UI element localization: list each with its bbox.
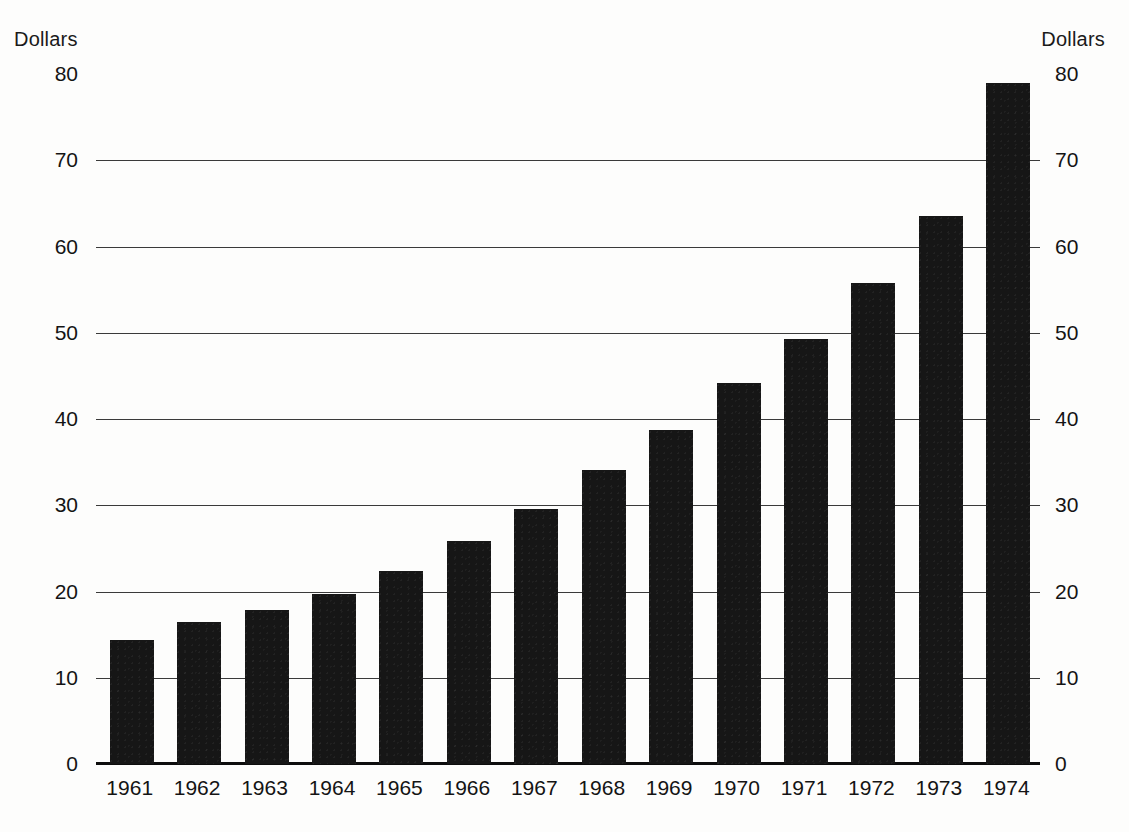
bar-1970 [717,383,761,764]
bar-1974 [986,83,1030,764]
x-tick-label-1962: 1962 [163,776,230,800]
bar-1961 [110,640,154,764]
x-tick-label-1964: 1964 [298,776,365,800]
x-tick-label-1971: 1971 [770,776,837,800]
bar-1973 [919,216,963,764]
y-tick-label-right-20: 20 [1055,581,1078,602]
x-tick-label-1973: 1973 [905,776,972,800]
y-tick-label-left-30: 30 [55,494,78,515]
x-tick-label-1972: 1972 [838,776,905,800]
y-tick-label-left-10: 10 [55,667,78,688]
bar-1964 [312,594,356,764]
bar-1965 [379,571,423,764]
x-tick-label-1967: 1967 [501,776,568,800]
y-tick-label-left-50: 50 [55,322,78,343]
bars-layer [96,74,1040,764]
y-tick-label-right-60: 60 [1055,236,1078,257]
y-tick-label-right-50: 50 [1055,322,1078,343]
y-tick-label-left-80: 80 [55,63,78,84]
y-tick-label-left-60: 60 [55,236,78,257]
bar-1967 [514,509,558,764]
y-tick-label-right-30: 30 [1055,494,1078,515]
y-axis-unit-label-left: Dollars [14,28,78,51]
x-tick-label-1965: 1965 [366,776,433,800]
y-tick-label-left-40: 40 [55,408,78,429]
bar-1969 [649,430,693,764]
bar-1962 [177,622,221,764]
y-tick-label-right-10: 10 [1055,667,1078,688]
x-tick-label-1963: 1963 [231,776,298,800]
x-tick-label-1970: 1970 [703,776,770,800]
y-tick-label-right-0: 0 [1055,753,1067,774]
x-tick-label-1961: 1961 [96,776,163,800]
x-tick-label-1968: 1968 [568,776,635,800]
bar-1968 [582,470,626,764]
x-tick-label-1969: 1969 [635,776,702,800]
bar-1966 [447,541,491,764]
y-tick-label-left-20: 20 [55,581,78,602]
x-tick-label-1974: 1974 [973,776,1040,800]
y-tick-label-left-0: 0 [66,753,78,774]
x-tick-label-1966: 1966 [433,776,500,800]
y-axis-unit-label-right: Dollars [1041,28,1105,51]
y-tick-label-right-80: 80 [1055,63,1078,84]
y-tick-label-right-40: 40 [1055,408,1078,429]
y-tick-label-left-70: 70 [55,149,78,170]
bar-1963 [245,610,289,764]
bar-chart: Dollars Dollars 196119621963196419651966… [0,0,1129,832]
y-tick-label-right-70: 70 [1055,149,1078,170]
x-axis-labels: 1961196219631964196519661967196819691970… [96,776,1040,812]
bar-1971 [784,339,828,764]
bar-1972 [851,283,895,764]
